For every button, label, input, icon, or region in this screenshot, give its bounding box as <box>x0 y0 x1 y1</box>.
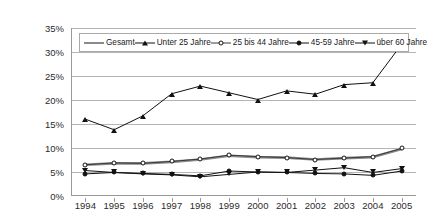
data-point <box>284 155 289 160</box>
y-tick-label: 15% <box>0 119 64 130</box>
legend-marker-icon <box>142 40 148 45</box>
legend-swatch-gesamt <box>84 38 104 47</box>
legend-marker-icon <box>296 40 301 45</box>
legend-swatch-ber-60-jahre <box>355 38 375 47</box>
y-tick-label: 0% <box>0 191 64 202</box>
data-point <box>255 97 261 102</box>
x-tick-label: 2004 <box>362 200 383 211</box>
x-tick-label: 2003 <box>334 200 355 211</box>
legend-swatch-unter-25-jahre <box>135 38 155 47</box>
legend-item-45-59-jahre[interactable]: 45-59 Jahre <box>289 38 355 47</box>
data-point <box>341 165 347 170</box>
legend-marker-icon <box>218 40 223 45</box>
data-point <box>169 172 175 177</box>
legend-label: Gesamt <box>106 38 135 47</box>
data-point <box>284 170 290 175</box>
legend-label: über 60 Jahre <box>377 38 428 47</box>
data-point <box>255 154 260 159</box>
x-tick-label: 2000 <box>247 200 268 211</box>
data-point <box>370 154 375 159</box>
legend-item-gesamt[interactable]: Gesamt <box>84 38 135 47</box>
legend-label: Unter 25 Jahre <box>157 38 211 47</box>
x-tick-label: 1996 <box>132 200 153 211</box>
data-point <box>342 156 347 161</box>
data-point <box>227 153 232 158</box>
data-point <box>111 128 117 133</box>
x-tick-label: 1997 <box>161 200 182 211</box>
data-point <box>342 171 347 176</box>
legend-swatch-25-bis-44-jahre <box>211 38 231 47</box>
legend-item-unter-25-jahre[interactable]: Unter 25 Jahre <box>135 38 211 47</box>
data-point <box>370 170 376 175</box>
x-tick-label: 2001 <box>276 200 297 211</box>
data-point <box>83 162 88 167</box>
data-point <box>169 92 175 97</box>
data-point <box>112 160 117 165</box>
data-point <box>226 91 232 96</box>
legend-swatch-45-59-jahre <box>289 38 309 47</box>
chart-legend: GesamtUnter 25 Jahre25 bis 44 Jahre45-59… <box>79 33 409 52</box>
data-point <box>226 171 232 176</box>
legend-item-25-bis-44-jahre[interactable]: 25 bis 44 Jahre <box>211 38 289 47</box>
y-tick-label: 5% <box>0 167 64 178</box>
data-point <box>399 146 404 151</box>
data-point <box>341 83 347 88</box>
y-tick-label: 10% <box>0 143 64 154</box>
data-point <box>140 161 145 166</box>
x-tick-label: 2005 <box>391 200 412 211</box>
y-tick-label: 30% <box>0 47 64 58</box>
data-point <box>82 117 88 122</box>
data-point <box>198 157 203 162</box>
y-tick-label: 35% <box>0 23 64 34</box>
data-point <box>111 170 117 175</box>
legend-label: 45-59 Jahre <box>311 38 355 47</box>
data-point <box>140 114 146 119</box>
data-point <box>313 157 318 162</box>
data-point <box>197 84 203 89</box>
data-point <box>169 159 174 164</box>
legend-item-ber-60-jahre[interactable]: über 60 Jahre <box>355 38 428 47</box>
x-tick-label: 2002 <box>305 200 326 211</box>
x-tick-label: 1995 <box>104 200 125 211</box>
legend-label: 25 bis 44 Jahre <box>233 38 289 47</box>
data-point <box>399 166 405 171</box>
data-point <box>255 169 261 174</box>
data-point <box>140 171 146 176</box>
x-tick-label: 1994 <box>75 200 96 211</box>
data-point <box>284 89 290 94</box>
data-point <box>82 168 88 173</box>
data-point <box>197 174 203 179</box>
y-axis: 0%5%10%15%20%25%30%35% <box>0 28 68 196</box>
y-tick-label: 25% <box>0 71 64 82</box>
data-point <box>312 92 318 97</box>
legend-marker-icon <box>362 40 368 45</box>
chart-container: 0%5%10%15%20%25%30%35% GesamtUnter 25 Ja… <box>0 0 432 222</box>
x-axis: 1994199519961997199819992000200120022003… <box>71 198 416 220</box>
x-tick-label: 1998 <box>190 200 211 211</box>
series-markers-layer <box>71 28 416 196</box>
y-tick-label: 20% <box>0 95 64 106</box>
data-point <box>370 81 376 86</box>
data-point <box>312 167 318 172</box>
x-tick-label: 1999 <box>219 200 240 211</box>
